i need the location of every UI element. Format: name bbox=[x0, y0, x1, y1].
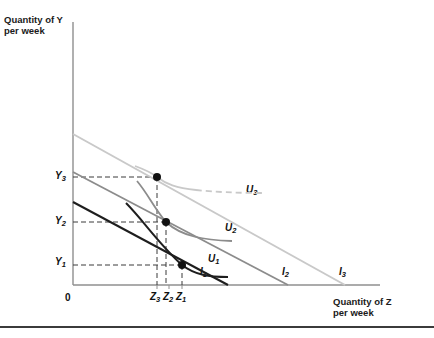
equilibrium-point-E2 bbox=[162, 218, 170, 226]
budget-line-I1 bbox=[73, 202, 228, 285]
indifference-curve-U3-dashed-tail bbox=[196, 190, 262, 193]
footer-divider bbox=[0, 326, 434, 328]
equilibrium-point-E3 bbox=[153, 173, 161, 181]
budget-line-I3 bbox=[73, 134, 345, 285]
equilibrium-point-E1 bbox=[178, 261, 186, 269]
plot-svg bbox=[0, 0, 434, 338]
figure-container: Quantity of Y per week Quantity of Z per… bbox=[0, 0, 434, 338]
